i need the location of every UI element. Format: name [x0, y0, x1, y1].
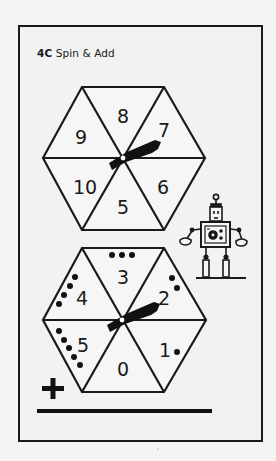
segment-label: 3 — [117, 266, 129, 288]
segment-label: 2 — [158, 287, 170, 309]
segment-label: 0 — [117, 358, 129, 380]
segment-label: 5 — [117, 196, 129, 218]
dot-group-3 — [109, 252, 135, 258]
segment-label: 10 — [73, 176, 97, 198]
segment-label: 1 — [159, 339, 171, 361]
segment-label: 4 — [76, 287, 88, 309]
segment-label: 6 — [157, 176, 169, 198]
bottom-spinner[interactable]: 3 2 1 0 5 4 — [43, 248, 206, 392]
segment-label: 9 — [75, 126, 87, 148]
plus-icon — [42, 378, 64, 399]
top-spinner[interactable]: 8 7 6 5 10 9 — [43, 87, 205, 230]
segment-label: 8 — [117, 105, 129, 127]
segment-label: 7 — [158, 119, 170, 141]
answer-line — [37, 409, 212, 413]
speck — [157, 448, 159, 450]
robot-icon — [180, 194, 247, 278]
segment-label: 5 — [77, 334, 89, 356]
dot-group-1 — [174, 349, 180, 355]
